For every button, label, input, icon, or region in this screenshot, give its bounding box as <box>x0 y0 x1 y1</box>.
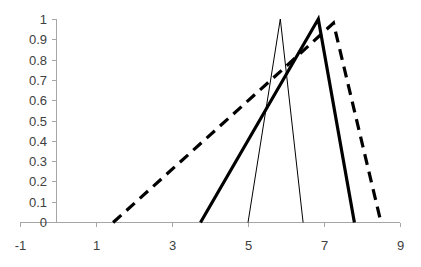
y-tick-label: 0.5 <box>29 114 47 129</box>
y-tick-label: 0.3 <box>29 154 47 169</box>
series-thin-solid-triangle <box>248 19 303 223</box>
x-axis-ticks <box>21 223 401 228</box>
series-dashed-triangle <box>113 23 381 222</box>
x-tick-label: 7 <box>321 238 328 253</box>
y-tick-label: 0.2 <box>29 174 47 189</box>
chart-plot-area: 1 0.9 0.8 0.7 0.6 0.5 0.4 0.3 0.2 0.1 0 … <box>0 0 421 267</box>
y-axis-tick-labels: 1 0.9 0.8 0.7 0.6 0.5 0.4 0.3 0.2 0.1 0 <box>29 12 47 230</box>
x-axis-tick-labels: -1 1 3 5 7 9 <box>15 238 404 253</box>
y-tick-label: 0.7 <box>29 73 47 88</box>
x-tick-label: 5 <box>245 238 252 253</box>
x-tick-label: 9 <box>397 238 404 253</box>
y-tick-label: 1 <box>40 12 47 27</box>
x-tick-label: 1 <box>93 238 100 253</box>
y-tick-label: 0.9 <box>29 32 47 47</box>
y-tick-label: 0.4 <box>29 134 47 149</box>
y-tick-label: 0.1 <box>29 195 47 210</box>
y-axis-ticks <box>52 20 57 223</box>
y-tick-label: 0.8 <box>29 53 47 68</box>
y-tick-label: 0.6 <box>29 93 47 108</box>
chart-container: 1 0.9 0.8 0.7 0.6 0.5 0.4 0.3 0.2 0.1 0 … <box>0 0 421 267</box>
chart-series-group <box>113 19 381 223</box>
y-tick-label: 0 <box>40 215 47 230</box>
x-tick-label: -1 <box>15 238 27 253</box>
x-tick-label: 3 <box>169 238 176 253</box>
